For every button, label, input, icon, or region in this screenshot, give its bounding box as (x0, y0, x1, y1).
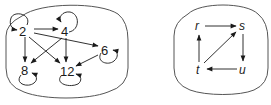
node-t: t (196, 63, 200, 77)
node-s: s (239, 19, 245, 33)
node-4: 4 (61, 24, 68, 39)
divisibility-graph: 2 4 6 8 12 (6, 5, 128, 98)
edge-4-8 (31, 38, 62, 63)
node-r: r (195, 19, 200, 33)
edge-2-12 (29, 37, 60, 63)
edge-t-s (204, 32, 236, 63)
node-12: 12 (60, 64, 74, 79)
node-u: u (239, 63, 246, 77)
diagram-canvas: 2 4 6 8 12 r s t u (0, 0, 271, 105)
node-6: 6 (101, 43, 108, 58)
right-container (174, 5, 268, 95)
variable-graph: r s t u (174, 5, 268, 95)
edge-6-12 (76, 55, 98, 66)
node-8: 8 (21, 63, 28, 78)
node-2: 2 (19, 24, 26, 39)
left-container (6, 5, 128, 98)
